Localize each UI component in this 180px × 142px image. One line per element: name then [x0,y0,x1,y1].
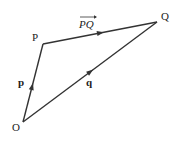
vector-label-q: q [86,76,93,88]
vector-label-PQ: PQ [78,18,94,30]
vector-diagram: P Q O p q PQ [0,0,180,142]
point-label-Q: Q [161,10,169,22]
point-label-O: O [12,121,20,133]
vector-label-p: p [18,76,24,88]
point-label-P: P [32,31,38,43]
edge-OP [23,44,43,122]
